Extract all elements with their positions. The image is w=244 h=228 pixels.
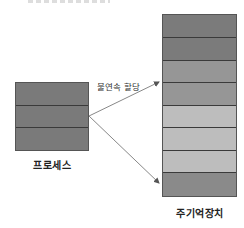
noncontiguous-allocation-label: 불연속 할당 <box>97 80 140 92</box>
allocation-arrows <box>0 0 244 228</box>
arrow-to-frame-8 <box>89 116 159 183</box>
